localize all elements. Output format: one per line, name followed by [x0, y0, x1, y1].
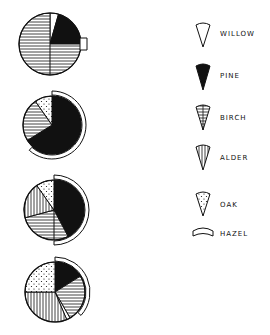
pie-charts [19, 13, 90, 322]
pollen-diagram: WILLOW PINE BIRCH ALDER OAK HAZEL [0, 0, 270, 335]
legend-item-alder: ALDER [196, 145, 248, 170]
legend-label-alder: ALDER [220, 154, 248, 162]
legend-label-willow: WILLOW [220, 30, 255, 38]
legend-item-willow: WILLOW [196, 23, 255, 47]
legend-label-hazel: HAZEL [220, 230, 248, 238]
legend-item-birch: BIRCH [196, 105, 247, 130]
alder-wedge-icon [196, 145, 210, 170]
legend-label-oak: OAK [220, 201, 238, 209]
hazel-arc-icon [193, 228, 213, 236]
legend-label-birch: BIRCH [220, 114, 247, 122]
legend-item-hazel: HAZEL [193, 228, 248, 238]
willow-wedge-icon [196, 23, 210, 47]
pie-chart-3 [24, 175, 89, 245]
pie-chart-4 [25, 257, 90, 322]
legend-item-oak: OAK [196, 192, 238, 216]
legend-item-pine: PINE [196, 64, 240, 90]
pie-chart-1 [19, 13, 87, 75]
hazel-arc [80, 38, 87, 50]
legend: WILLOW PINE BIRCH ALDER OAK HAZEL [193, 23, 255, 238]
pine-wedge-icon [196, 64, 210, 90]
pie-chart-2 [23, 91, 86, 159]
legend-label-pine: PINE [220, 72, 240, 80]
oak-wedge-icon [196, 192, 210, 216]
